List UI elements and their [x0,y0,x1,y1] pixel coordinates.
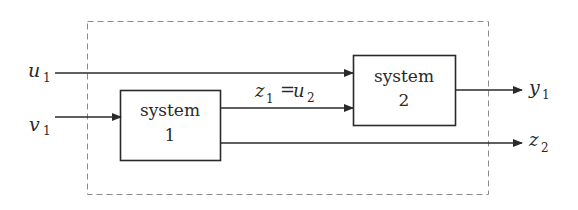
y1-label: y 1 [528,76,550,102]
svg-text:1: 1 [43,124,51,138]
system2-label-line1: system [374,66,434,86]
v1-label: v 1 [29,113,51,138]
system2-block: system 2 [354,56,456,126]
svg-text:1: 1 [43,71,51,85]
z2-label: z 2 [528,129,549,155]
svg-text:y: y [528,76,540,98]
block-diagram: system 1 system 2 u 1 v 1 z 1 = u 2 y 1 … [0,0,578,210]
z1-u2-label: z 1 = u 2 [254,79,315,106]
svg-text:2: 2 [541,141,549,155]
svg-text:1: 1 [542,88,550,102]
system1-block: system 1 [121,91,221,161]
svg-text:z: z [254,80,265,101]
u1-label: u 1 [28,59,51,85]
svg-text:2: 2 [307,91,315,105]
svg-text:z: z [528,129,539,150]
svg-text:1: 1 [266,92,274,106]
system1-label-line1: system [140,100,200,120]
system2-label-line2: 2 [399,90,410,110]
svg-text:u: u [293,80,305,101]
svg-text:v: v [29,113,40,135]
system1-label-line2: 1 [165,125,176,145]
svg-text:u: u [28,59,40,81]
